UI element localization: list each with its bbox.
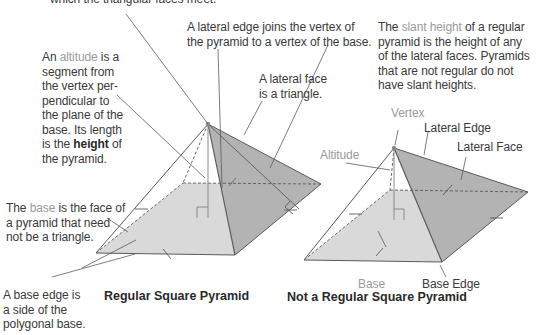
lateral-edge-note: A lateral edge joins the vertex of the p… (187, 20, 372, 49)
right-vertex-dot (392, 146, 396, 150)
slant-height-note: The slant height of a regular pyramid is… (378, 20, 530, 93)
altitude-label: Altitude (320, 148, 359, 163)
lateral-face-note: A lateral face is a triangle. (259, 72, 327, 101)
altitude-term: altitude (60, 50, 98, 64)
base-note: The base is the face of a pyramid that n… (6, 201, 125, 245)
base-edge-note: A base edge is a side of the polygonal b… (3, 288, 86, 332)
vertex-label: Vertex (391, 106, 424, 121)
altitude-note: An altitude is a segment from the vertex… (42, 50, 123, 166)
slant-height-term: slant height (402, 20, 462, 34)
caption-irregular-pyramid: Not a Regular Square Pyramid (287, 290, 467, 304)
lateral-face-label: Lateral Face (457, 140, 523, 155)
lateral-edge-label: Lateral Edge (424, 121, 491, 136)
caption-regular-pyramid: Regular Square Pyramid (104, 289, 249, 303)
height-term: height (73, 137, 108, 151)
base-term: base (30, 201, 56, 215)
vertex-note: which the triangular faces meet. (50, 0, 216, 7)
